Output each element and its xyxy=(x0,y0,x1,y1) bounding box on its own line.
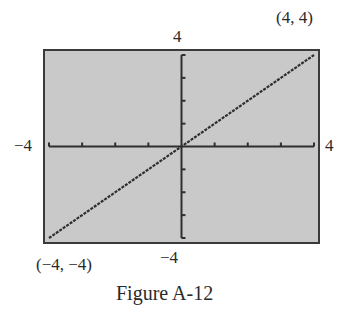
y-min-label: −4 xyxy=(160,249,178,266)
figure-caption: Figure A-12 xyxy=(116,283,213,303)
x-max-label: 4 xyxy=(325,137,334,154)
point-label-bottom-left: (−4, −4) xyxy=(36,256,92,273)
y-max-label: 4 xyxy=(173,28,182,45)
calculator-graph-screen xyxy=(43,49,320,244)
point-label-top-right: (4, 4) xyxy=(276,9,313,26)
x-min-label: −4 xyxy=(14,137,32,154)
plot-area xyxy=(45,51,318,242)
